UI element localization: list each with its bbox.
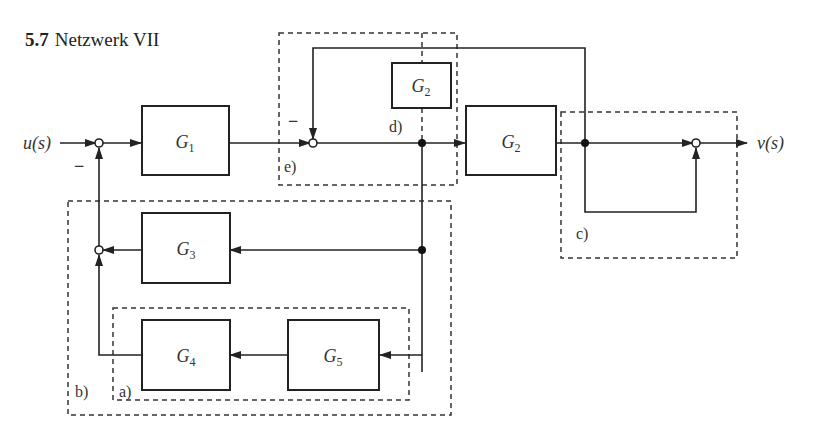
sum-point-c xyxy=(692,139,700,147)
input-signal-label: u(s) xyxy=(23,133,51,154)
sum-point-2 xyxy=(95,246,103,254)
junction-2 xyxy=(581,139,589,147)
sum-point-1 xyxy=(95,139,103,147)
region-c-label: c) xyxy=(576,225,588,243)
output-signal-label: v(s) xyxy=(757,133,784,154)
region-e-label: e) xyxy=(284,158,296,176)
junction-3 xyxy=(418,246,426,254)
sum-point-e xyxy=(309,139,317,147)
junction-1 xyxy=(418,139,426,147)
region-a-label: a) xyxy=(119,383,131,401)
sum1-minus-sign: − xyxy=(74,156,84,176)
region-d-label: d) xyxy=(389,118,402,136)
sum-e-minus-sign: − xyxy=(288,111,298,131)
region-b-label: b) xyxy=(75,383,88,401)
blocks xyxy=(142,63,556,390)
block-diagram: G1 G2 G2 G3 G4 G5 u(s) v(s) − − a) b) c)… xyxy=(0,0,828,444)
